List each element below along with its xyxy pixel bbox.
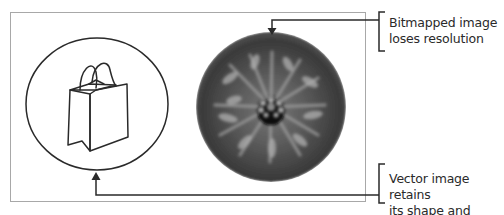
bitmap-callout-label: Bitmapped image loses resolution (389, 15, 497, 47)
bitmap-image (196, 32, 346, 182)
vector-circle (26, 38, 168, 170)
bitmap-callout-bracket (379, 12, 385, 51)
arrow-up-icon (92, 172, 101, 180)
bitmap-leader-line (272, 20, 379, 30)
vector-callout-label: Vector image retains its shape and clari… (389, 171, 504, 215)
vector-image (26, 38, 168, 170)
bitmap-callout-line2: loses resolution (389, 31, 497, 47)
vector-callout-line2: its shape and clarity (389, 203, 504, 215)
vector-leader-line (96, 178, 379, 195)
vector-callout-line1: Vector image retains (389, 171, 504, 203)
vector-callout-bracket (379, 164, 385, 203)
shopping-bag-icon (68, 63, 128, 151)
bitmap-callout-line1: Bitmapped image (389, 15, 497, 31)
